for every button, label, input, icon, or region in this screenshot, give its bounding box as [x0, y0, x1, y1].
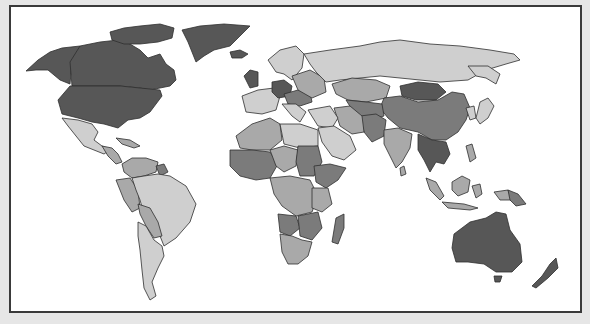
region-canada[interactable]: [70, 40, 176, 90]
region-east-africa[interactable]: [312, 188, 332, 212]
region-india[interactable]: [384, 128, 412, 168]
region-java[interactable]: [442, 202, 478, 210]
region-west-africa[interactable]: [230, 150, 278, 180]
region-mongolia[interactable]: [400, 82, 446, 100]
region-morocco-algeria[interactable]: [236, 118, 282, 150]
region-ethiopia-horn[interactable]: [314, 164, 346, 188]
region-madagascar[interactable]: [332, 214, 344, 244]
region-japan[interactable]: [476, 98, 494, 124]
region-borneo[interactable]: [452, 176, 470, 196]
region-sri-lanka[interactable]: [400, 166, 406, 176]
region-ireland-uk[interactable]: [244, 70, 258, 88]
region-tasmania[interactable]: [494, 276, 502, 282]
region-caribbean[interactable]: [116, 138, 140, 148]
region-kazakhstan[interactable]: [332, 78, 390, 102]
region-angola[interactable]: [278, 214, 300, 236]
region-new-zealand[interactable]: [532, 258, 558, 288]
region-papua-new-guinea[interactable]: [508, 190, 526, 206]
region-middle-east[interactable]: [308, 106, 338, 128]
region-iceland[interactable]: [230, 50, 248, 58]
region-libya-egypt[interactable]: [280, 124, 318, 148]
world-map: [0, 0, 590, 324]
region-italy-balkans[interactable]: [282, 104, 306, 122]
region-central-africa[interactable]: [270, 176, 318, 216]
region-mozambique-zambia[interactable]: [298, 212, 322, 240]
region-canada-islands[interactable]: [110, 24, 174, 44]
region-korea[interactable]: [466, 106, 476, 120]
region-philippines[interactable]: [466, 144, 476, 162]
region-sulawesi[interactable]: [472, 184, 482, 198]
region-australia[interactable]: [452, 212, 522, 272]
region-sumatra[interactable]: [426, 178, 444, 200]
region-central-america[interactable]: [102, 146, 122, 164]
